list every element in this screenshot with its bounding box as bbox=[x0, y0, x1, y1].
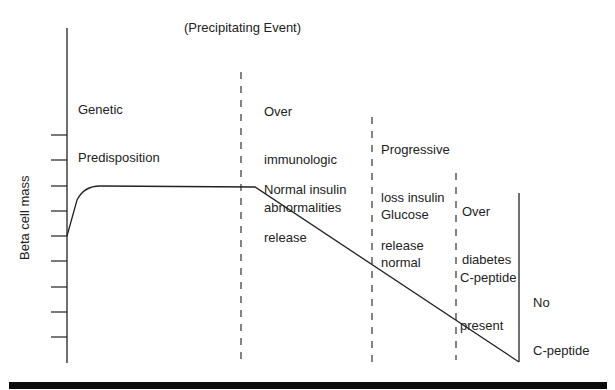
beta-cell-diagram: (Precipitating Event) Beta cell mass Gen… bbox=[0, 0, 615, 390]
y-axis-ticks bbox=[51, 135, 67, 337]
precipitating-event-label: (Precipitating Event) bbox=[184, 20, 301, 36]
stage-glucose-normal: Glucose normal bbox=[381, 175, 429, 303]
stage-normal-insulin-release: Normal insulin release bbox=[264, 150, 346, 278]
footer-bar bbox=[9, 382, 607, 389]
y-axis-label: Beta cell mass bbox=[17, 175, 32, 260]
stage-no-c-peptide: No C-peptide bbox=[533, 263, 589, 390]
stage-genetic-predisposition: Genetic Predisposition bbox=[78, 70, 160, 198]
stage-c-peptide-present: C-peptide present bbox=[460, 238, 516, 366]
